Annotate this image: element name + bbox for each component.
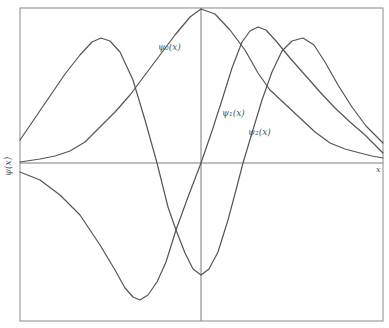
label-psi2: ψ₂(x)	[248, 128, 271, 137]
y-axis-label: ψ(x)	[3, 157, 13, 176]
x-axis-label: x	[376, 166, 381, 174]
label-psi0: ψ₀(x)	[158, 43, 181, 52]
label-psi1: ψ₁(x)	[222, 109, 245, 118]
wavefunction-plot	[0, 0, 389, 328]
